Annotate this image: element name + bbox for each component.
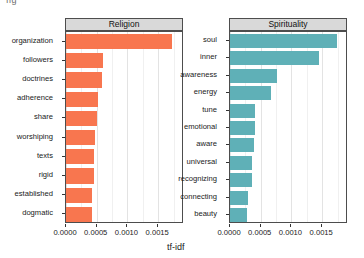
gridline-minor: [338, 32, 339, 222]
corner-mark-text: fig: [6, 0, 17, 5]
bar-beauty: [230, 208, 247, 222]
x-axis-tick: [126, 224, 127, 227]
y-axis-label-recognizing: recognizing: [0, 175, 223, 183]
y-axis-label-share: share: [0, 113, 59, 121]
bar-recognizing: [230, 173, 252, 187]
y-axis-tick: [226, 110, 229, 111]
y-axis-tick: [226, 75, 229, 76]
bar-connecting: [230, 191, 248, 205]
tfidf-facet-chart: fig Religion Spirituality tf-idf organiz…: [0, 0, 364, 258]
y-axis-label-beauty: beauty: [0, 210, 223, 218]
bar-universal: [230, 156, 252, 170]
y-axis-tick: [226, 57, 229, 58]
y-axis-label-aware: aware: [0, 140, 223, 148]
y-axis-label-awareness: awareness: [0, 71, 223, 79]
facet-strip-label-religion: Religion: [109, 20, 140, 29]
y-axis-label-worshiping: worshiping: [0, 133, 59, 141]
plot-area-spirituality: [229, 31, 347, 223]
bar-aware: [230, 138, 254, 152]
x-axis-tick: [229, 224, 230, 227]
y-axis-tick: [226, 162, 229, 163]
y-axis-tick: [226, 127, 229, 128]
facet-strip-religion: Religion: [65, 18, 183, 31]
bar-awareness: [230, 69, 277, 83]
x-axis-tick-label: 0.0010: [115, 229, 138, 237]
bar-inner: [230, 51, 319, 65]
x-axis-tick: [321, 224, 322, 227]
bar-tune: [230, 104, 255, 118]
x-axis-tick-label: 0.0015: [146, 229, 169, 237]
x-axis-tick: [96, 224, 97, 227]
facet-strip-label-spirituality: Spirituality: [268, 20, 307, 29]
y-axis-tick: [226, 197, 229, 198]
y-axis-tick: [62, 117, 65, 118]
x-axis-tick: [65, 224, 66, 227]
x-axis-tick-label: 0.0005: [248, 229, 271, 237]
x-axis-tick-label: 0.0000: [217, 229, 240, 237]
y-axis-label-energy: energy: [0, 88, 223, 96]
y-axis-label-emotional: emotional: [0, 123, 223, 131]
facet-strip-spirituality: Spirituality: [229, 18, 347, 31]
x-axis-tick-label: 0.0015: [310, 229, 333, 237]
x-axis-tick: [157, 224, 158, 227]
gridline-major: [322, 32, 323, 222]
y-axis-tick: [62, 156, 65, 157]
y-axis-tick: [226, 179, 229, 180]
x-axis-tick: [290, 224, 291, 227]
y-axis-label-connecting: connecting: [0, 193, 223, 201]
x-axis-tick-label: 0.0000: [53, 229, 76, 237]
x-axis-tick: [260, 224, 261, 227]
y-axis-tick: [226, 92, 229, 93]
y-axis-tick: [226, 40, 229, 41]
y-axis-tick: [62, 137, 65, 138]
y-axis-label-universal: universal: [0, 158, 223, 166]
x-axis-tick-label: 0.0010: [279, 229, 302, 237]
x-axis-tick-label: 0.0005: [84, 229, 107, 237]
y-axis-tick: [226, 144, 229, 145]
y-axis-tick: [62, 79, 65, 80]
y-axis-label-tune: tune: [0, 106, 223, 114]
y-axis-tick: [226, 214, 229, 215]
x-axis-title: tf-idf: [167, 243, 185, 252]
bar-energy: [230, 86, 271, 100]
y-axis-tick: [62, 98, 65, 99]
y-axis-label-soul: soul: [0, 36, 223, 44]
bar-soul: [230, 34, 337, 48]
bar-emotional: [230, 121, 255, 135]
y-axis-label-inner: inner: [0, 53, 223, 61]
